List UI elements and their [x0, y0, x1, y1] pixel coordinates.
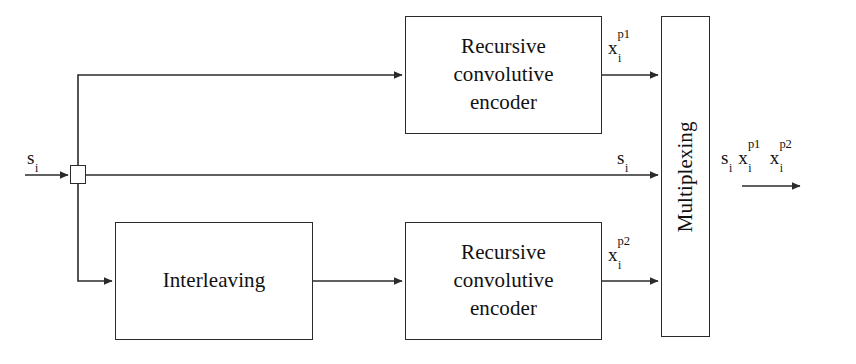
systematic-signal-label: si: [617, 148, 628, 167]
input-signal-label: si: [27, 148, 38, 167]
interleaving-block: Interleaving: [115, 222, 313, 340]
signal-split-node: [70, 165, 86, 184]
multiplexing-label: Multiplexing: [672, 121, 700, 232]
block-diagram-canvas: Recursive convolutive encoder Interleavi…: [0, 0, 856, 364]
multiplexing-block: Multiplexing: [661, 16, 710, 337]
recursive-convolutive-encoder-bottom: Recursive convolutive encoder: [405, 222, 602, 340]
parity2-signal-label: xip2: [608, 245, 634, 264]
recursive-convolutive-encoder-top: Recursive convolutive encoder: [405, 16, 602, 134]
wire-split-to-interleaving: [78, 184, 112, 281]
output-term-parity2: xip2: [770, 147, 796, 168]
parity1-signal-label: xip1: [608, 38, 634, 57]
output-signal-label: sixip1xip2: [721, 148, 801, 167]
encoder-bottom-label: Recursive convolutive encoder: [453, 239, 553, 322]
output-term-parity1: xip1: [738, 147, 764, 168]
wire-split-to-encoder-top: [78, 75, 402, 165]
encoder-top-label: Recursive convolutive encoder: [453, 33, 553, 116]
interleaving-label: Interleaving: [163, 267, 266, 295]
output-term-systematic: si: [721, 147, 732, 168]
